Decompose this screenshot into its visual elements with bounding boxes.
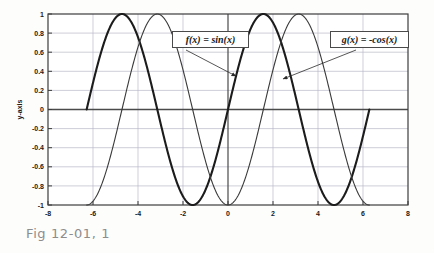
ytick-label: 0.8 [34, 30, 44, 37]
ytick-label: 0.4 [34, 68, 44, 75]
ytick-label: 1 [40, 11, 44, 18]
xtick-label: -8 [45, 210, 51, 217]
ytick-label: 0.6 [34, 49, 44, 56]
annotation-cos-text: g(x) = -cos(x) [342, 34, 398, 45]
figure-page: -8-6-4-202468-1-0.8-0.6-0.4-0.200.20.40.… [0, 0, 434, 253]
ytick-label: 0 [40, 106, 44, 113]
ytick-label: -0.2 [32, 125, 44, 132]
ytick-label: -0.6 [32, 163, 44, 170]
xtick-label: 8 [406, 210, 410, 217]
annotation-cos-label: g(x) = -cos(x) [330, 31, 409, 48]
ytick-label: -0.8 [32, 183, 44, 190]
figure-caption: Fig 12-01, 1 [26, 226, 110, 241]
xtick-label: -4 [135, 210, 141, 217]
xtick-label: 6 [361, 210, 365, 217]
ytick-label: -1 [38, 202, 44, 209]
xtick-label: -6 [90, 210, 96, 217]
ytick-label: -0.4 [32, 144, 44, 151]
annotation-sin-text: f(x) = sin(x) [186, 34, 236, 45]
xtick-label: 0 [226, 210, 230, 217]
xtick-label: 4 [316, 210, 320, 217]
chart-figure: -8-6-4-202468-1-0.8-0.6-0.4-0.200.20.40.… [0, 0, 434, 220]
xtick-label: -2 [180, 210, 186, 217]
y-axis-title: y-axis [16, 99, 24, 119]
xtick-label: 2 [271, 210, 275, 217]
ytick-label: 0.2 [34, 87, 44, 94]
annotation-sin-label: f(x) = sin(x) [172, 31, 249, 48]
